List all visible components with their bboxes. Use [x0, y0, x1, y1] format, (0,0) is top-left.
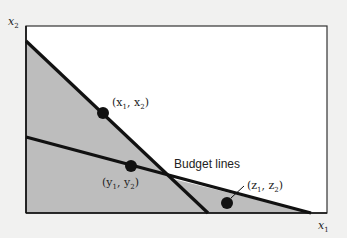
budget-diagram [0, 0, 347, 238]
x-axis-label: x1 [318, 220, 329, 234]
point-x-dot [97, 107, 109, 119]
point-z-label: (z1, z2) [247, 180, 283, 194]
y-axis-label: x2 [8, 16, 19, 30]
point-x-label: (x1, x2) [112, 97, 149, 111]
point-z-dot [221, 197, 233, 209]
point-y-dot [125, 160, 137, 172]
point-y-label: (y1, y2) [102, 177, 139, 191]
budget-lines-label: Budget lines [174, 158, 240, 170]
